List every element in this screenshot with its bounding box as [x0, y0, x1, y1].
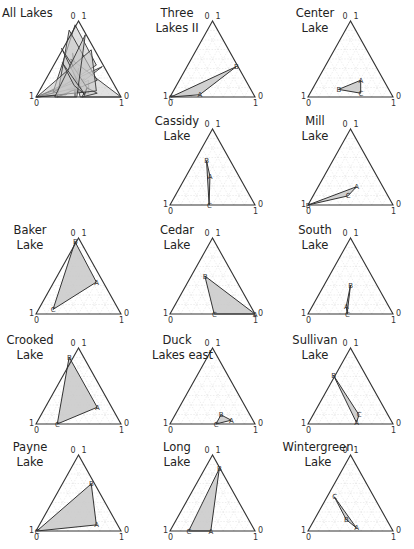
left-tick-0: 0 — [168, 99, 173, 108]
panel-title-mill: Mill Lake — [290, 114, 340, 144]
apex-tick-1: 1 — [216, 12, 221, 21]
apex-tick-0: 0 — [343, 229, 348, 238]
data-polygon — [207, 161, 210, 205]
data-polygon — [334, 375, 360, 422]
right-tick-0: 0 — [258, 419, 263, 428]
right-tick-0: 0 — [396, 526, 401, 535]
apex-tick-0: 0 — [205, 229, 210, 238]
right-tick-1: 1 — [119, 426, 124, 435]
panel-title-crooked: Crooked Lake — [2, 333, 58, 363]
apex-tick-0: 0 — [205, 339, 210, 348]
right-tick-0: 0 — [124, 309, 129, 318]
apex-tick-1: 1 — [354, 229, 359, 238]
right-tick-1: 1 — [119, 533, 124, 542]
left-tick-0: 0 — [168, 207, 173, 216]
apex-tick-0: 0 — [71, 12, 76, 21]
right-tick-0: 0 — [258, 92, 263, 101]
right-tick-0: 0 — [396, 419, 401, 428]
left-tick-0: 0 — [34, 533, 39, 542]
right-tick-1: 1 — [253, 207, 258, 216]
vertex-label-A: A — [208, 173, 213, 181]
left-tick-0: 0 — [306, 426, 311, 435]
apex-tick-0: 0 — [343, 12, 348, 21]
panel-title-duck: Duck Lakes east — [152, 333, 202, 363]
data-polygon — [339, 80, 361, 93]
right-tick-0: 0 — [124, 526, 129, 535]
right-tick-0: 0 — [396, 309, 401, 318]
apex-tick-0: 0 — [205, 12, 210, 21]
right-tick-0: 0 — [258, 309, 263, 318]
right-tick-1: 1 — [119, 316, 124, 325]
apex-tick-0: 0 — [71, 229, 76, 238]
right-tick-1: 1 — [391, 316, 396, 325]
vertex-label-A: A — [94, 521, 99, 529]
panel-title-long: Long Lake — [152, 440, 202, 470]
vertex-label-A: A — [354, 419, 359, 427]
right-tick-0: 0 — [258, 200, 263, 209]
apex-tick-1: 1 — [82, 229, 87, 238]
apex-tick-0: 0 — [71, 446, 76, 455]
right-tick-1: 1 — [391, 207, 396, 216]
apex-tick-1: 1 — [82, 339, 87, 348]
right-tick-1: 1 — [253, 316, 258, 325]
vertex-label-B: B — [348, 282, 353, 290]
right-tick-0: 0 — [396, 92, 401, 101]
vertex-label-B: B — [344, 516, 349, 524]
vertex-label-B: B — [203, 273, 208, 281]
left-tick-0: 0 — [34, 316, 39, 325]
right-tick-0: 0 — [124, 419, 129, 428]
left-tick-0: 0 — [168, 533, 173, 542]
apex-tick-1: 1 — [354, 339, 359, 348]
vertex-label-B: B — [217, 465, 222, 473]
apex-tick-0: 0 — [71, 339, 76, 348]
data-polygon — [171, 67, 236, 97]
left-tick-0: 0 — [34, 99, 39, 108]
data-polygon — [53, 242, 96, 310]
apex-tick-1: 1 — [354, 12, 359, 21]
vertex-label-C: C — [332, 493, 337, 501]
right-tick-1: 1 — [391, 533, 396, 542]
apex-tick-1: 1 — [354, 446, 359, 455]
left-tick-0: 0 — [306, 99, 311, 108]
apex-tick-1: 1 — [216, 229, 221, 238]
apex-tick-1: 1 — [216, 339, 221, 348]
apex-tick-1: 1 — [216, 120, 221, 129]
vertex-label-A: A — [359, 77, 364, 85]
vertex-label-C: C — [51, 306, 56, 314]
right-tick-1: 1 — [391, 426, 396, 435]
right-tick-1: 1 — [253, 99, 258, 108]
vertex-label-B: B — [219, 411, 224, 419]
ternary-panel-all: 011001 — [29, 12, 129, 108]
left-tick-0: 0 — [306, 207, 311, 216]
right-tick-0: 0 — [396, 200, 401, 209]
apex-tick-1: 1 — [216, 446, 221, 455]
vertex-label-A: A — [94, 279, 99, 287]
vertex-label-C: C — [357, 411, 362, 419]
panel-title-three: Three Lakes II — [152, 6, 202, 36]
panel-title-all: All Lakes — [2, 6, 53, 21]
vertex-label-A: A — [95, 404, 100, 412]
panel-title-payne: Payne Lake — [2, 440, 58, 470]
vertex-label-A: A — [198, 91, 203, 99]
right-tick-0: 0 — [124, 92, 129, 101]
panel-title-south: South Lake — [290, 223, 340, 253]
data-polygon — [205, 276, 255, 314]
apex-tick-0: 0 — [343, 339, 348, 348]
vertex-label-C: C — [346, 192, 351, 200]
right-tick-1: 1 — [119, 99, 124, 108]
panel-title-sullivan: Sullivan Lake — [290, 333, 340, 363]
apex-tick-0: 0 — [205, 446, 210, 455]
panel-title-center: Center Lake — [290, 6, 340, 36]
panel-title-cedar: Cedar Lake — [152, 223, 202, 253]
right-tick-1: 1 — [253, 426, 258, 435]
panel-title-cassidy: Cassidy Lake — [152, 114, 202, 144]
right-tick-0: 0 — [258, 526, 263, 535]
left-tick-0: 0 — [168, 316, 173, 325]
vertex-label-A: A — [354, 183, 359, 191]
apex-tick-1: 1 — [354, 120, 359, 129]
panel-title-winter: Wintergreen Lake — [282, 440, 354, 470]
right-tick-1: 1 — [253, 533, 258, 542]
left-tick-0: 0 — [168, 426, 173, 435]
apex-tick-1: 1 — [82, 446, 87, 455]
panel-title-baker: Baker Lake — [2, 223, 58, 253]
